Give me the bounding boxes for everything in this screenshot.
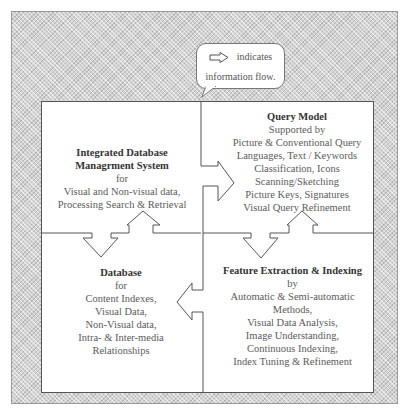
block-line: for xyxy=(46,279,196,292)
block-title: Managrment System xyxy=(46,159,198,172)
block-line: Relationships xyxy=(46,344,196,357)
block-query-model: Query Model Supported by Picture & Conve… xyxy=(222,110,372,214)
block-line: Scanning/Sketching xyxy=(222,175,372,188)
block-line: Visual and Non-visual data, xyxy=(46,185,198,198)
block-line: Index Tuning & Refinement xyxy=(210,355,375,368)
block-title: Integrated Database xyxy=(46,146,198,159)
block-line: Continuous Indexing, xyxy=(210,342,375,355)
legend-bubble-tail xyxy=(196,86,220,100)
block-line: Visual Query Refinement xyxy=(222,201,372,214)
legend-bubble: indicates information flow. xyxy=(196,43,285,89)
block-line: Content Indexes, xyxy=(46,292,196,305)
block-line: for xyxy=(46,172,198,185)
legend-text-line1: indicates xyxy=(237,51,273,62)
block-line: Picture Keys, Signatures xyxy=(222,188,372,201)
block-line: Languages, Text / Keywords xyxy=(222,149,372,162)
block-database: Database for Content Indexes, Visual Dat… xyxy=(46,266,196,357)
block-line: Non-Visual data, xyxy=(46,318,196,331)
block-line: Methods, xyxy=(210,303,375,316)
block-line: Supported by xyxy=(222,123,372,136)
block-line: Visual Data Analysis, xyxy=(210,316,375,329)
block-line: by xyxy=(210,277,375,290)
block-line: Processing Search & Retrieval xyxy=(46,198,198,211)
block-line: Intra- & Inter-media xyxy=(46,331,196,344)
block-title: Feature Extraction & Indexing xyxy=(210,264,375,277)
block-integrated-dbms: Integrated Database Managrment System fo… xyxy=(46,146,198,211)
block-title: Database xyxy=(46,266,196,279)
block-feature-extraction: Feature Extraction & Indexing by Automat… xyxy=(210,264,375,368)
block-line: Automatic & Semi-automatic xyxy=(210,290,375,303)
right-arrow-outline-icon xyxy=(209,52,229,63)
block-line: Image Understanding, xyxy=(210,329,375,342)
block-line: Visual Data, xyxy=(46,305,196,318)
block-line: Picture & Conventional Query xyxy=(222,136,372,149)
block-line: Classification, Icons xyxy=(222,162,372,175)
legend-text-line2: information flow. xyxy=(197,71,284,82)
block-title: Query Model xyxy=(222,110,372,123)
